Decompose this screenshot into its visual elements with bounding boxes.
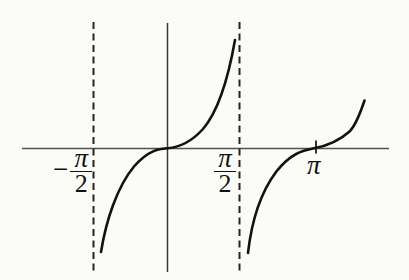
tick-label-pi: π xyxy=(307,153,321,177)
tick-label-neg-pi-over-2: − π 2 xyxy=(53,147,92,195)
tan-plot-figure: − π 2 π 2 π xyxy=(0,0,409,280)
minus-sign: − xyxy=(53,156,68,183)
fraction-numerator: π xyxy=(74,147,88,171)
fraction-denominator: 2 xyxy=(70,171,92,195)
tick-label-pi-over-2: π 2 xyxy=(214,147,236,195)
fraction-numerator: π xyxy=(218,147,232,171)
fraction-neg-pi-over-2: π 2 xyxy=(70,147,92,195)
fraction-pi-over-2: π 2 xyxy=(214,147,236,195)
plot-canvas xyxy=(0,0,409,280)
fraction-denominator: 2 xyxy=(214,171,236,195)
